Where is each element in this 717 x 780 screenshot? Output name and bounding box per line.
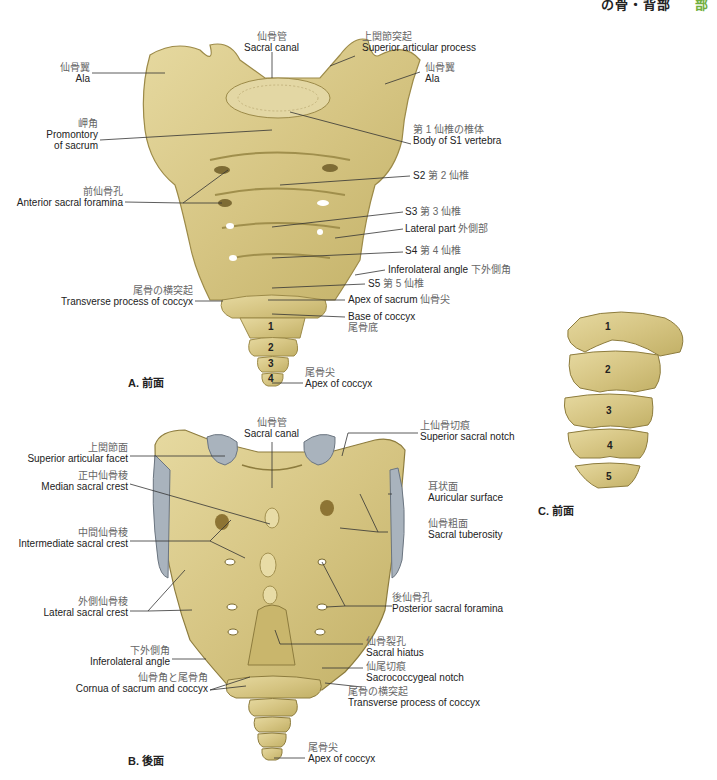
label-b-sacral-tuberosity: 仙骨粗面 Sacral tuberosity [428,518,502,540]
vertebra-number-3: 3 [606,405,612,416]
label-b-sacral-canal: 仙骨管 Sacral canal [244,417,299,439]
label-b-superior-articular-facet: 上関節面 Superior articular facet [10,442,128,464]
label-a-s5: S5 第 5 仙椎 [368,278,424,289]
label-b-transverse-process-coccyx: 尾骨の横突起 Transverse process of coccyx [348,686,480,708]
label-b-lateral-sacral-crest: 外側仙骨稜 Lateral sacral crest [10,596,128,618]
caption-figure-a: A. 前面 [128,374,164,390]
caption-figure-c: C. 前面 [538,502,574,518]
figure-b-sacrum-posterior [130,430,418,760]
label-b-posterior-sacral-foramina: 後仙骨孔 Posterior sacral foramina [392,592,503,614]
label-a-promontory: 岬角 Promontory of sacrum [30,118,98,151]
coccyx-number-2: 2 [268,342,274,353]
label-b-apex-coccyx: 尾骨尖 Apex of coccyx [308,742,375,764]
label-a-ala-left: 仙骨翼 Ala [40,62,90,84]
vertebra-number-4: 4 [607,440,613,451]
label-a-lateral-part: Lateral part 外側部 [405,223,488,234]
label-a-superior-articular-process: 上関節突起 Superior articular process [362,31,476,53]
label-a-transverse-process-coccyx: 尾骨の横突起 Transverse process of coccyx [30,285,193,307]
vertebra-number-1: 1 [605,321,611,332]
label-a-body-s1: 第 1 仙椎の椎体 Body of S1 vertebra [413,124,501,146]
label-a-ala-right: 仙骨翼 Ala [425,62,455,84]
label-a-apex-sacrum: Apex of sacrum 仙骨尖 [348,294,450,305]
caption-figure-b: B. 後面 [128,752,164,768]
label-a-s4: S4 第 4 仙椎 [405,245,461,256]
label-b-cornua: 仙骨角と尾骨角 Cornua of sacrum and coccyx [30,672,208,694]
label-a-anterior-sacral-foramina: 前仙骨孔 Anterior sacral foramina [10,186,123,208]
coccyx-number-3: 3 [268,358,274,369]
label-a-s2: S2 第 2 仙椎 [413,170,469,181]
label-b-sacral-hiatus: 仙骨裂孔 Sacral hiatus [366,636,424,658]
label-b-auricular-surface: 耳状面 Auricular surface [428,481,503,503]
label-a-base-coccyx: Base of coccyx 尾骨底 [348,311,415,333]
label-b-intermediate-sacral-crest: 中間仙骨稜 Intermediate sacral crest [0,527,128,549]
vertebra-number-5: 5 [606,471,612,482]
figure-a-sacrum-anterior: 1 2 3 4 [92,39,420,386]
coccyx-number-1: 1 [268,321,274,332]
label-a-s3: S3 第 3 仙椎 [405,206,461,217]
label-a-sacral-canal: 仙骨管 Sacral canal [244,31,299,53]
label-b-inferolateral-angle: 下外側角 Inferolateral angle [60,645,170,667]
label-a-apex-coccyx: 尾骨尖 Apex of coccyx [305,367,372,389]
figure-c-vertebrae-anterior: 1 2 3 4 5 [564,312,682,488]
label-a-inferolateral-angle: Inferolateral angle 下外側角 [388,264,511,275]
label-b-superior-sacral-notch: 上仙骨切痕 Superior sacral notch [420,420,515,442]
label-b-sacrococcygeal-notch: 仙尾切痕 Sacrococcygeal notch [366,661,464,683]
vertebra-number-2: 2 [605,364,611,375]
coccyx-number-4: 4 [268,373,274,384]
label-b-median-sacral-crest: 正中仙骨稜 Median sacral crest [10,470,128,492]
